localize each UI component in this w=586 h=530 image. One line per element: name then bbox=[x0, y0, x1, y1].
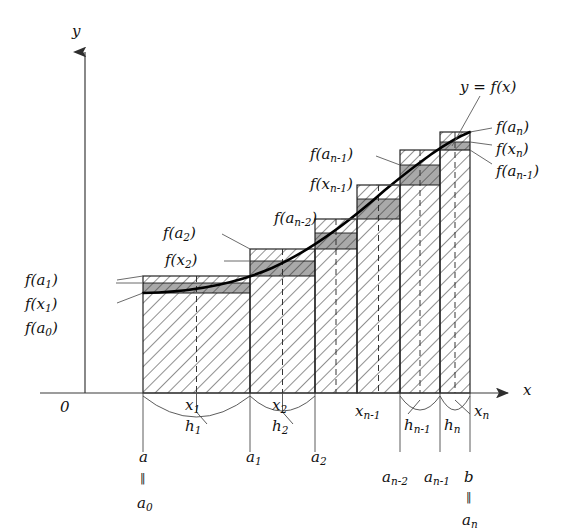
label-f-xn-1: f(xn-1) bbox=[309, 175, 353, 194]
label-f-an-1-right: f(an-1) bbox=[495, 162, 539, 181]
label-h1: h1 bbox=[185, 417, 201, 436]
leader-f-a2 bbox=[222, 234, 250, 249]
x-axis-label: x bbox=[523, 381, 532, 399]
bar-2 bbox=[250, 249, 315, 393]
leader-f-a1 bbox=[117, 276, 143, 280]
left-level-labels: f(a1) f(x1) f(a0) bbox=[24, 271, 58, 338]
label-a: a bbox=[139, 448, 148, 466]
label-f-a1: f(a1) bbox=[24, 271, 58, 290]
leader-f-an-1-left bbox=[376, 156, 400, 165]
label-a1: a1 bbox=[246, 448, 262, 467]
bar-4 bbox=[357, 185, 400, 393]
label-f-an-1-left: f(an-1) bbox=[309, 145, 353, 164]
equality-stack-b: b ‖ an bbox=[462, 468, 478, 530]
bar-5 bbox=[400, 150, 440, 393]
bar-6 bbox=[440, 132, 470, 393]
leader-f-an bbox=[470, 128, 492, 132]
label-hn-1: hn-1 bbox=[404, 416, 431, 435]
label-f-an-2: f(an-2) bbox=[273, 209, 317, 228]
diagram-canvas: y x 0 bbox=[0, 0, 586, 530]
h-width-labels: h1 h2 hn-1 hn bbox=[185, 416, 461, 436]
label-x2: x2 bbox=[272, 396, 287, 415]
label-an-2: an-2 bbox=[382, 468, 408, 487]
label-f-x2: f(x2) bbox=[164, 251, 198, 270]
label-x1: x1 bbox=[185, 396, 200, 415]
label-f-xn: f(xn) bbox=[495, 140, 529, 159]
label-f-a0: f(a0) bbox=[24, 319, 58, 338]
leader-xn bbox=[455, 400, 470, 414]
label-an-1: an-1 bbox=[424, 468, 450, 487]
bar-3 bbox=[315, 219, 357, 393]
stack-b-bottom: an bbox=[462, 511, 478, 530]
label-f-an: f(an) bbox=[495, 118, 529, 137]
right-level-labels: f(an) f(xn) f(an-1) bbox=[495, 118, 539, 181]
leader-f-an-1-right bbox=[470, 150, 492, 164]
label-h2: h2 bbox=[272, 417, 289, 436]
stack-b-top: b bbox=[464, 468, 474, 486]
stack-b-double-bar: ‖ bbox=[466, 490, 472, 504]
leader-xn-1 bbox=[408, 400, 420, 414]
stack-a-double-bar: ‖ bbox=[140, 471, 146, 485]
origin-label: 0 bbox=[60, 398, 70, 416]
equality-stack-a: ‖ a0 bbox=[137, 471, 153, 513]
label-a2: a2 bbox=[311, 448, 327, 467]
label-f-a2: f(a2) bbox=[162, 224, 196, 243]
stack-a-bottom: a0 bbox=[137, 494, 153, 513]
label-xn-1: xn-1 bbox=[355, 402, 380, 421]
riemann-sum-figure: y x 0 bbox=[0, 0, 586, 530]
label-hn: hn bbox=[444, 416, 461, 435]
leader-f-a0 bbox=[117, 293, 143, 303]
label-f-x1: f(x1) bbox=[24, 295, 58, 314]
brace-hn bbox=[440, 396, 470, 410]
y-axis-label: y bbox=[71, 22, 81, 40]
curve-equation-label: y = f(x) bbox=[459, 78, 516, 96]
leader-f-xn bbox=[470, 142, 492, 145]
label-xn: xn bbox=[474, 402, 489, 421]
brace-hn-1 bbox=[400, 396, 440, 410]
partition-labels: a a1 a2 an-2 an-1 bbox=[139, 448, 450, 487]
